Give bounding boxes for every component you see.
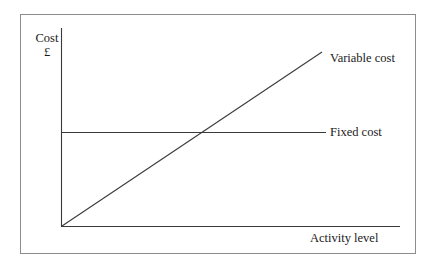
y-axis-unit-text: £ — [30, 45, 64, 59]
y-axis-label-text: Cost — [36, 31, 59, 45]
variable-cost-line — [62, 52, 322, 226]
fixed-cost-label: Fixed cost — [330, 125, 382, 139]
cost-behaviour-chart-figure: Cost £ Activity level Variable cost Fixe… — [0, 0, 434, 272]
y-axis-label: Cost £ — [30, 31, 64, 59]
variable-cost-label: Variable cost — [330, 51, 395, 65]
x-axis-label: Activity level — [310, 231, 378, 245]
